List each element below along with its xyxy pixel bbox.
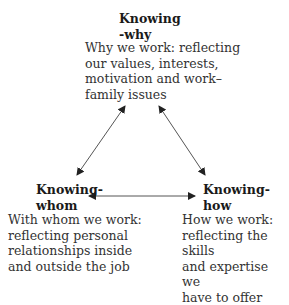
node-whom-title-line1: Knowing-: [36, 182, 103, 197]
node-how-title: Knowing- how: [203, 182, 270, 213]
desc-line: motivation and work–: [85, 71, 240, 87]
desc-line: reflecting the skills: [182, 228, 289, 259]
node-why-title-line1: Knowing: [119, 11, 181, 26]
node-whom-title: Knowing- whom: [36, 182, 103, 213]
desc-line: How we work:: [182, 212, 289, 228]
node-how-title-line2: how: [203, 198, 270, 213]
arrow-why-whom: [77, 106, 125, 175]
node-why-title: Knowing -why: [119, 11, 181, 42]
node-whom-desc: With whom we work: reflecting personal r…: [8, 212, 142, 274]
desc-line: With whom we work:: [8, 212, 142, 228]
desc-line: and expertise we: [182, 259, 289, 290]
desc-line: family issues: [85, 87, 240, 103]
node-why-desc: Why we work: reflecting our values, inte…: [85, 40, 240, 102]
desc-line: have to offer: [182, 290, 289, 305]
arrow-why-how: [159, 106, 205, 175]
desc-line: and outside the job: [8, 259, 142, 275]
node-whom-title-line2: whom: [36, 198, 103, 213]
desc-line: reflecting personal: [8, 228, 142, 244]
desc-line: relationships inside: [8, 243, 142, 259]
desc-line: Why we work: reflecting: [85, 40, 240, 56]
node-how-title-line1: Knowing-: [203, 182, 270, 197]
node-how-desc: How we work: reflecting the skills and e…: [182, 212, 289, 305]
desc-line: our values, interests,: [85, 56, 240, 72]
